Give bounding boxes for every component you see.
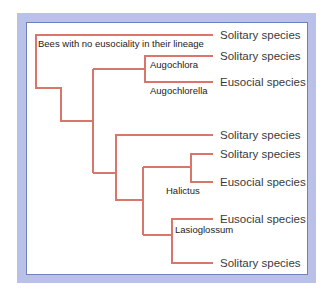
tip-label: Solitary species	[220, 50, 301, 62]
clade-label: Lasioglossum	[175, 224, 233, 235]
clade-label: Augochlora	[150, 59, 199, 70]
tip-label: Solitary species	[220, 129, 301, 141]
tip-label: Solitary species	[220, 29, 301, 41]
phylogenetic-tree: Solitary speciesSolitary speciesEusocial…	[0, 0, 334, 296]
tip-label: Eusocial species	[220, 76, 306, 88]
clade-label: Bees with no eusociality in their lineag…	[38, 38, 204, 49]
clade-label: Halictus	[166, 185, 200, 196]
tip-label: Eusocial species	[220, 176, 306, 188]
tip-label: Solitary species	[220, 257, 301, 269]
tip-label: Solitary species	[220, 148, 301, 160]
clade-label: Augochlorella	[150, 85, 208, 96]
tree-branch	[191, 154, 213, 182]
clade-labels: Bees with no eusociality in their lineag…	[38, 38, 233, 235]
